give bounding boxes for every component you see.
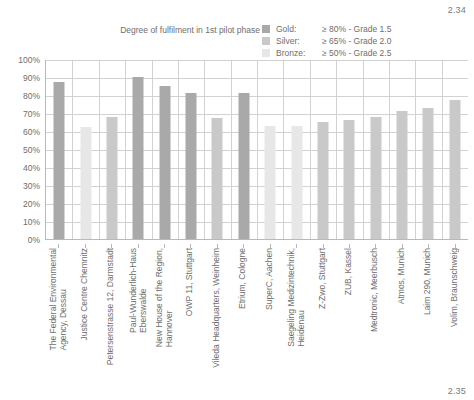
bar: [397, 111, 408, 239]
legend-item-name: Gold:: [276, 24, 322, 34]
x-axis-slot: Justice Centre Chemnitz: [71, 248, 97, 394]
chart-legend: Gold:≥ 80% - Grade 1.5Silver:≥ 65% - Gra…: [262, 23, 462, 59]
bar-slot: [442, 60, 468, 239]
bar: [238, 93, 249, 239]
x-axis-tick-label: Volim, Braunschweig: [450, 248, 460, 327]
x-axis-slot: Petersenstrasse 12, Darmstadt: [98, 248, 124, 394]
x-axis-tick-label: Saegeling Medizintechnik, Heidenau: [287, 248, 306, 347]
legend-item: Silver:≥ 65% - Grade 2.0: [262, 35, 462, 47]
bar-slot: [204, 60, 230, 239]
bar-slot: [46, 60, 72, 239]
x-axis-tick-label: Medtronic, Meerbusch: [371, 248, 381, 332]
bar-slot: [283, 60, 309, 239]
x-axis-slot: Paul-Wunderlich-Haus Eberswalde: [124, 248, 150, 394]
y-axis-tick-label: 60%: [23, 127, 40, 137]
legend-item-description: ≥ 65% - Grade 2.0: [322, 36, 391, 46]
bar-slot: [310, 60, 336, 239]
x-axis-slot: Medtronic, Meerbusch: [362, 248, 388, 394]
bar-slot: [389, 60, 415, 239]
figure-number-top: 2.34: [448, 5, 466, 15]
bar-slot: [99, 60, 125, 239]
x-axis-slot: OWP 11, Stuttgart: [177, 248, 203, 394]
legend-swatch-icon: [262, 37, 270, 45]
y-axis-tick-label: 40%: [23, 163, 40, 173]
x-axis-slot: Vileda Headquarters, Weinheim: [204, 248, 230, 394]
bar: [291, 126, 302, 239]
legend-item-description: ≥ 80% - Grade 1.5: [322, 24, 391, 34]
bar: [54, 82, 65, 239]
x-axis-slot: The Federal Environmental Agency, Dessau: [45, 248, 71, 394]
bar: [106, 117, 117, 239]
bar: [344, 120, 355, 239]
y-axis-tick-label: 30%: [23, 181, 40, 191]
legend-item: Gold:≥ 80% - Grade 1.5: [262, 23, 462, 35]
x-axis-tick-label: Vileda Headquarters, Weinheim: [212, 248, 222, 368]
x-axis-labels: The Federal Environmental Agency, Dessau…: [45, 248, 468, 394]
bar-slot: [257, 60, 283, 239]
bar: [423, 108, 434, 239]
x-axis-tick-label: ZUB, Kassel: [344, 248, 354, 295]
bar-slot: [72, 60, 98, 239]
bar-slot: [178, 60, 204, 239]
x-axis-tick-label: SuperC, Aachen: [265, 248, 275, 310]
bar: [370, 117, 381, 239]
x-axis-slot: Saegeling Medizintechnik, Heidenau: [283, 248, 309, 394]
bar-slot: [415, 60, 441, 239]
bar: [265, 126, 276, 239]
x-axis-tick-label: Laim 290, Munich: [424, 248, 434, 315]
chart-subtitle: Degree of fulfilment in 1st pilot phase: [120, 25, 260, 35]
legend-swatch-icon: [262, 25, 270, 33]
x-axis-tick-label: Atmos, Munich: [397, 248, 407, 304]
x-axis-tick-label: Z-Zwo, Stuttgart: [318, 248, 328, 309]
x-axis-tick-label: Etrium, Cologne: [239, 248, 249, 309]
bar-slot: [231, 60, 257, 239]
bar: [159, 86, 170, 239]
x-axis-tick-label: New House of the Region, Hannover: [154, 248, 173, 347]
y-axis-tick-label: 100%: [18, 55, 40, 65]
bar-slot: [363, 60, 389, 239]
x-axis-tick-label: Petersenstrasse 12, Darmstadt: [106, 248, 116, 365]
y-axis-tick-label: 90%: [23, 73, 40, 83]
bar-slot: [125, 60, 151, 239]
y-axis-tick-label: 50%: [23, 145, 40, 155]
x-axis-tick-label: Justice Centre Chemnitz: [80, 248, 90, 341]
y-axis-tick-label: 80%: [23, 91, 40, 101]
bar-slot: [152, 60, 178, 239]
plot-area: [45, 60, 468, 240]
bar-slot: [336, 60, 362, 239]
legend-item-name: Silver:: [276, 36, 322, 46]
x-axis-slot: New House of the Region, Hannover: [151, 248, 177, 394]
y-axis-tick-label: 20%: [23, 199, 40, 209]
figure-number-bottom: 2.35: [448, 386, 466, 396]
y-axis: 100%90%80%70%60%50%40%30%20%10%0%: [0, 55, 44, 240]
x-axis-slot: Etrium, Cologne: [230, 248, 256, 394]
x-axis-slot: SuperC, Aachen: [257, 248, 283, 394]
bar: [186, 93, 197, 239]
y-axis-tick-label: 70%: [23, 109, 40, 119]
bar: [212, 118, 223, 239]
x-axis-tick-label: Paul-Wunderlich-Haus Eberswalde: [128, 248, 147, 333]
x-axis-slot: Atmos, Munich: [389, 248, 415, 394]
bar: [317, 122, 328, 239]
x-axis-tick-label: OWP 11, Stuttgart: [186, 248, 196, 316]
bar-series: [46, 60, 468, 239]
x-axis-slot: Volim, Braunschweig: [442, 248, 468, 394]
bar: [449, 100, 460, 239]
x-axis-slot: Z-Zwo, Stuttgart: [309, 248, 335, 394]
bar: [133, 77, 144, 239]
x-axis-tick-label: The Federal Environmental Agency, Dessau: [49, 248, 68, 351]
x-axis-slot: Laim 290, Munich: [415, 248, 441, 394]
x-axis-slot: ZUB, Kassel: [336, 248, 362, 394]
y-axis-tick-label: 10%: [23, 217, 40, 227]
y-axis-tick-label: 0%: [28, 235, 40, 245]
chart-plot-wrapper: 100%90%80%70%60%50%40%30%20%10%0%: [0, 55, 474, 245]
bar: [80, 127, 91, 239]
